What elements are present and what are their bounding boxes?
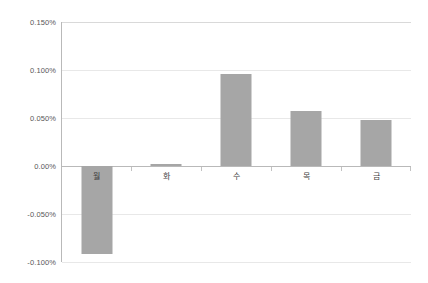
category-label-mon: 월 [93,170,100,181]
y-tick-label: -0.050% [4,210,56,219]
bar-thu[interactable] [291,111,322,166]
category-label-wed: 수 [233,170,240,181]
category-label-thu: 목 [303,170,310,181]
bar-chart: 0.150% 0.100% 0.050% 0.00% -0.050% -0.10… [0,0,428,283]
bar-slot-wed [201,22,271,262]
bar-wed[interactable] [221,74,252,166]
bar-slot-thu [271,22,341,262]
bar-slot-fri [341,22,411,262]
y-tick-label: 0.050% [4,114,56,123]
y-tick-label: -0.100% [4,258,56,267]
y-tick-label: 0.00% [4,162,56,171]
y-axis-tick-labels: 0.150% 0.100% 0.050% 0.00% -0.050% -0.10… [0,0,56,283]
category-label-tue: 화 [163,170,170,181]
gridline-neg0100 [62,262,411,263]
bar-slot-tue [131,22,201,262]
y-tick-label: 0.100% [4,66,56,75]
bar-tue[interactable] [151,164,182,166]
category-label-fri: 금 [373,170,380,181]
bar-fri[interactable] [361,120,392,166]
plot-area: 월 화 수 목 금 [62,22,411,262]
y-tick-label: 0.150% [4,18,56,27]
bar-slot-mon [62,22,131,262]
